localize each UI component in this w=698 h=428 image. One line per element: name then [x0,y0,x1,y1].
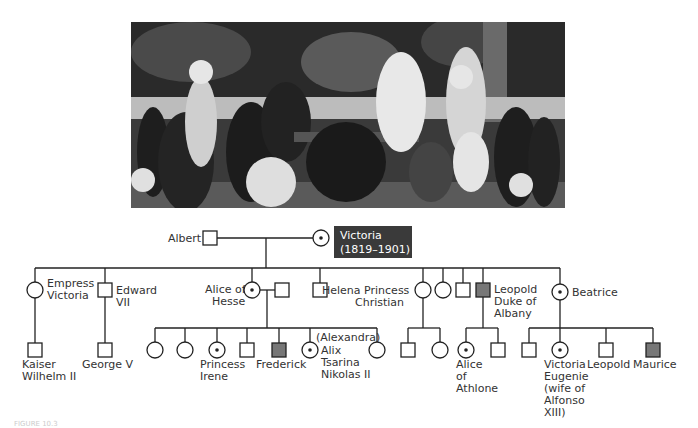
empress-victoria-female-circle-icon [27,282,43,298]
edward-label-2: VII [116,296,130,309]
albert-label: Albert [168,232,202,245]
empress-label-2: Victoria [47,289,89,302]
alice-label-2: Hesse [212,295,246,308]
wilhelm-male-square-icon [28,343,42,357]
alix-label-4: Nikolas II [321,368,371,381]
carrier-dot-icon [464,348,468,352]
maurice-label: Maurice [633,358,677,371]
carrier-dot-icon [308,348,312,352]
carrier-dot-icon [319,236,323,240]
hesse-daughter3-circle-icon [369,342,385,358]
helena-daughter-circle-icon [432,342,448,358]
beatrice-son1-square-icon [522,343,536,357]
maurice-affected-square-icon [646,343,660,357]
helena-female-circle-icon [415,282,431,298]
helena-label-2: Christian [355,296,404,309]
frederick-label: Frederick [256,358,307,371]
leopold-affected-square-icon [476,283,490,297]
alix-label-1: (Alexandra) [316,331,380,344]
generation-1: Albert Victoria (1819–1901) [168,226,412,268]
leopold-son-square-icon [491,343,505,357]
frederick-affected-square-icon [272,343,286,357]
edward-vii-male-square-icon [98,283,112,297]
irene-label-2: Irene [200,370,228,383]
beatrice-leopold-square-icon [599,343,613,357]
hesse-daughter2-circle-icon [177,342,193,358]
george-label: George V [82,358,134,371]
hesse-daughter1-circle-icon [147,342,163,358]
leopold-label-3: Albany [494,307,532,320]
beatrice-leopold-label: Leopold [587,358,630,371]
athlone-label-3: Athlone [456,382,498,395]
wilhelm-label-2: Wilhelm II [22,370,76,383]
victoria-name: Victoria [340,229,382,242]
eugenie-label-5: XIII) [544,406,566,419]
pedigree-chart: Albert Victoria (1819–1901) Empress Vict… [0,0,698,428]
george-male-square-icon [98,343,112,357]
carrier-dot-icon [558,290,562,294]
helena-son-square-icon [401,343,415,357]
albert-male-square-icon [203,231,217,245]
generation-3: Kaiser Wilhelm II George V Princess Iren… [22,328,677,419]
carrier-dot-icon [558,348,562,352]
carrier-dot-icon [215,348,219,352]
victoria-dates: (1819–1901) [340,243,410,256]
hesse-son-square-icon [240,343,254,357]
beatrice-label: Beatrice [572,286,618,299]
figure-caption: FIGURE 10.3 [14,420,58,428]
daughter-female-circle-icon [435,282,451,298]
carrier-dot-icon [250,288,254,292]
alice-spouse-male-square-icon [275,283,289,297]
son2-male-square-icon [456,283,470,297]
